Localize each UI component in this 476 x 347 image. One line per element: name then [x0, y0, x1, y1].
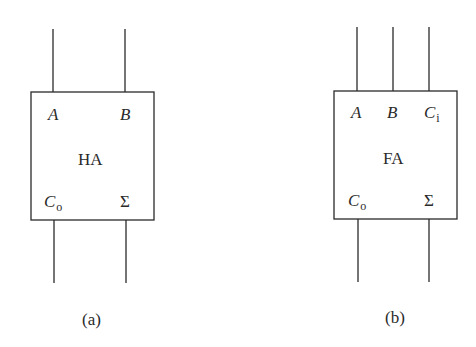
diagram-lines: [0, 0, 476, 347]
fa-output-co-label: Co: [348, 192, 366, 212]
fa-output-sum-label: Σ: [424, 192, 434, 209]
ha-input-b-label: B: [120, 106, 130, 123]
fa-input-ci-label: Ci: [424, 104, 440, 124]
fa-input-b-label: B: [387, 104, 397, 121]
ha-output-sum-label: Σ: [120, 193, 130, 210]
caption-b: (b): [385, 309, 405, 326]
caption-a: (a): [82, 311, 101, 328]
ha-input-a-label: A: [48, 106, 58, 123]
fa-input-a-label: A: [351, 104, 361, 121]
ha-block-label: HA: [78, 151, 103, 168]
ha-output-co-label: Co: [44, 193, 62, 213]
fa-block-label: FA: [383, 150, 403, 167]
